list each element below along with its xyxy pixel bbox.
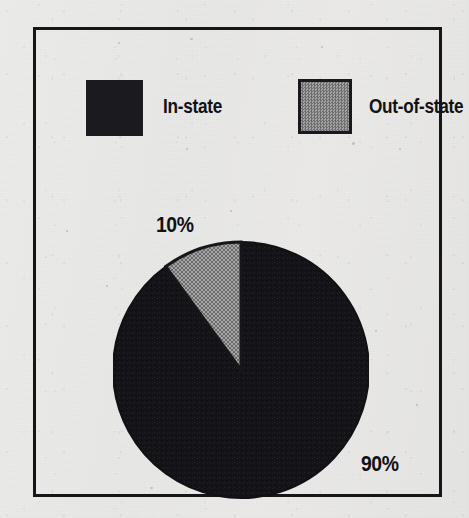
pie-chart-svg <box>113 235 369 505</box>
legend-label-out-of-state: Out-of-state <box>369 95 463 118</box>
figure-canvas: In-state Out-of-state <box>0 0 469 518</box>
pie-label-in-state-percent: 90% <box>361 451 398 477</box>
chart-frame-border: In-state Out-of-state <box>33 27 442 497</box>
legend-swatch-in-state[interactable] <box>86 80 143 136</box>
legend-swatch-out-of-state[interactable] <box>298 79 352 134</box>
pie-label-out-of-state-percent: 10% <box>156 212 193 238</box>
legend-label-in-state: In-state <box>163 95 222 118</box>
pie-chart <box>113 235 369 505</box>
